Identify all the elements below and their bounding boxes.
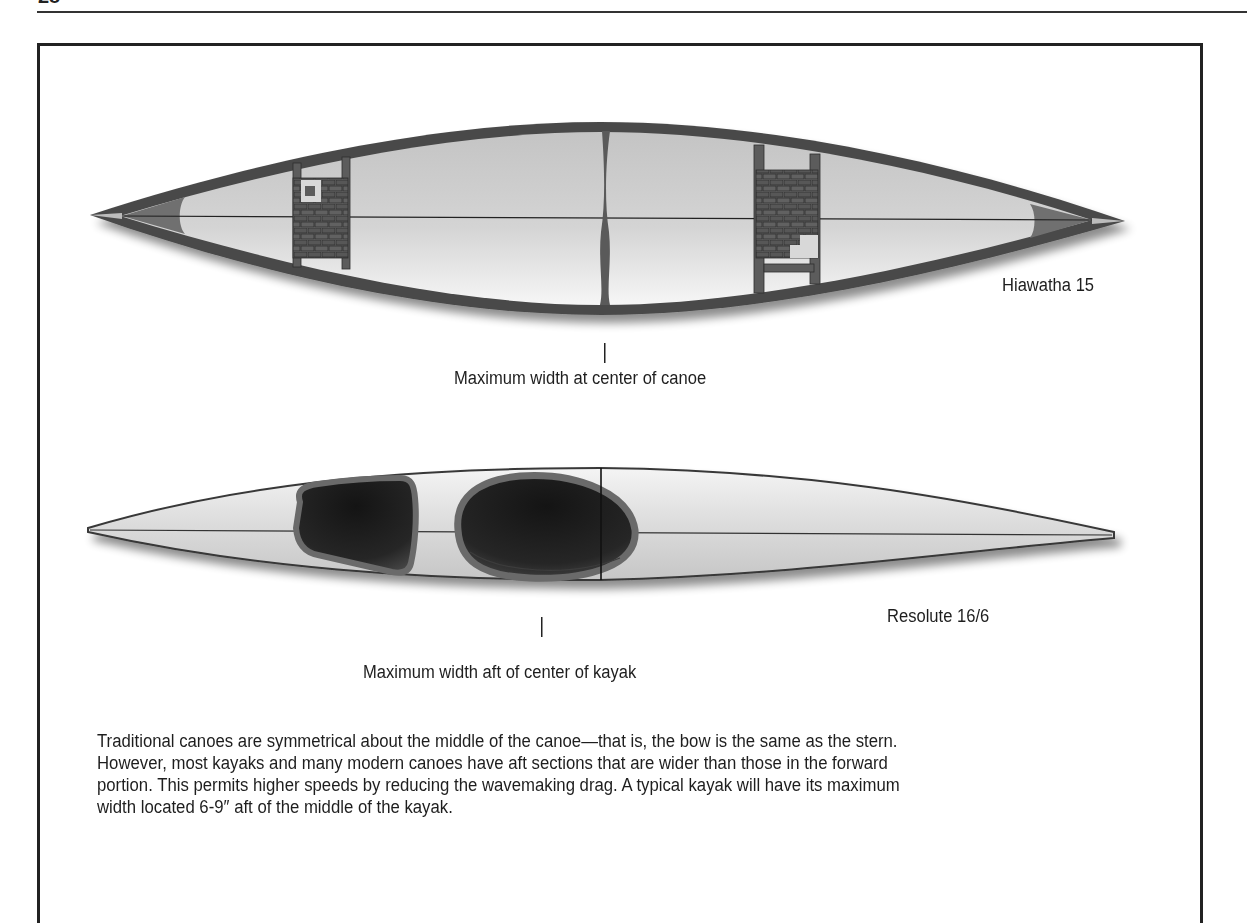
kayak-model-label: Resolute 16/6	[887, 606, 989, 627]
canoe-hiawatha-15	[90, 122, 1125, 315]
kayak-resolute-16-6	[88, 468, 1114, 580]
canoe-max-width-marker	[604, 343, 606, 363]
kayak-cockpit	[458, 476, 635, 579]
canoe-model-label: Hiawatha 15	[1002, 275, 1094, 296]
kayak-center-marker	[541, 617, 543, 637]
canoe-max-width-annotation: Maximum width at center of canoe	[454, 368, 706, 389]
caption-line: However, most kayaks and many modern can…	[97, 752, 1101, 774]
caption-line: portion. This permits higher speeds by r…	[97, 774, 1101, 796]
kayak-max-width-annotation: Maximum width aft of center of kayak	[363, 662, 636, 683]
caption-line: Traditional canoes are symmetrical about…	[97, 730, 1101, 752]
caption-line: width located 6-9″ aft of the middle of …	[97, 796, 1101, 818]
figure-caption: Traditional canoes are symmetrical about…	[97, 730, 1101, 818]
